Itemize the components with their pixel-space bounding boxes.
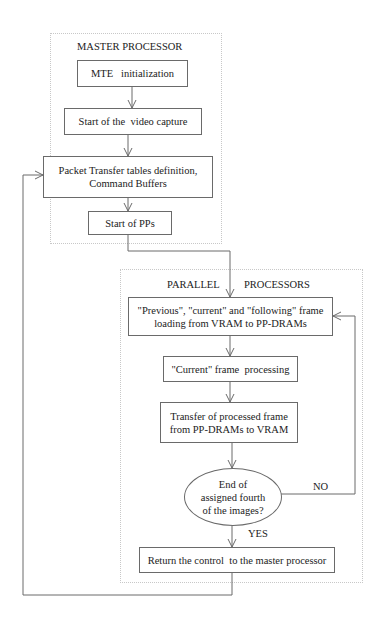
frame-processing-step: "Current" frame processing bbox=[163, 356, 298, 382]
frame-loading-step: "Previous", "current" and "following" fr… bbox=[128, 297, 333, 336]
master-processor-title: MASTER PROCESSOR bbox=[77, 41, 182, 52]
end-of-images-decision: End of assigned fourth of the images? bbox=[184, 468, 282, 526]
yes-branch-label: YES bbox=[248, 528, 268, 539]
mte-initialization-step: MTE initialization bbox=[77, 60, 188, 87]
no-branch-label: NO bbox=[313, 481, 328, 492]
start-pps-step: Start of PPs bbox=[88, 211, 172, 235]
video-capture-step: Start of the video capture bbox=[64, 108, 202, 135]
frame-transfer-step: Transfer of processed frame from PP-DRAM… bbox=[160, 402, 298, 443]
parallel-title-right: PROCESSORS bbox=[244, 279, 310, 290]
parallel-title-left: PARALLEL bbox=[167, 279, 220, 290]
packet-transfer-step: Packet Transfer tables definition, Comma… bbox=[43, 156, 213, 198]
return-control-step: Return the control to the master process… bbox=[139, 547, 335, 573]
